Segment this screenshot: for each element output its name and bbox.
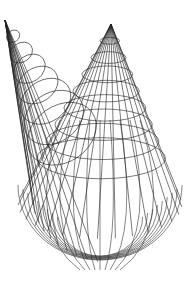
left-cone-wireframe	[4, 20, 108, 262]
bowl-base-wireframe	[18, 120, 182, 270]
wireframe-cones-figure	[0, 0, 196, 287]
